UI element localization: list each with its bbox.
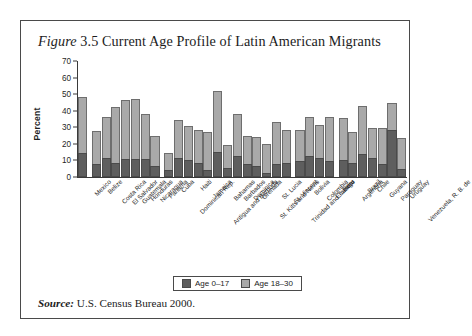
bar-segment-age-18-30[interactable] xyxy=(368,128,377,158)
bar-segment-age-18-30[interactable] xyxy=(243,136,252,164)
bar-segment-age-18-30[interactable] xyxy=(92,131,101,164)
bar-segment-age-0-17[interactable] xyxy=(194,163,203,177)
bar-segment-age-18-30[interactable] xyxy=(325,117,334,161)
bar-segment-age-0-17[interactable] xyxy=(262,173,271,177)
bar-segment-age-18-30[interactable] xyxy=(348,132,357,163)
bar-segment-age-0-17[interactable] xyxy=(131,159,140,177)
bar-segment-age-18-30[interactable] xyxy=(78,97,87,154)
bar-segment-age-18-30[interactable] xyxy=(194,130,203,163)
bar-segment-age-0-17[interactable] xyxy=(368,158,377,177)
bar-segment-age-18-30[interactable] xyxy=(131,99,140,159)
bar-segment-age-18-30[interactable] xyxy=(164,153,173,170)
bar-stack[interactable] xyxy=(233,114,242,177)
bar-segment-age-0-17[interactable] xyxy=(223,168,232,177)
bar-segment-age-0-17[interactable] xyxy=(184,160,193,177)
bar-stack[interactable] xyxy=(223,145,232,177)
bar-segment-age-18-30[interactable] xyxy=(174,120,183,158)
bar-segment-age-0-17[interactable] xyxy=(305,156,314,177)
bar-stack[interactable] xyxy=(325,117,334,177)
bar-stack[interactable] xyxy=(141,114,150,177)
bar-stack[interactable] xyxy=(131,99,140,177)
bar-segment-age-18-30[interactable] xyxy=(339,118,348,160)
bar-stack[interactable] xyxy=(397,138,406,177)
bar-segment-age-18-30[interactable] xyxy=(378,128,387,164)
bar-segment-age-18-30[interactable] xyxy=(397,138,406,168)
legend-item[interactable]: Age 18–30 xyxy=(241,279,293,288)
bar-segment-age-0-17[interactable] xyxy=(348,163,357,177)
bar-segment-age-18-30[interactable] xyxy=(315,125,324,158)
bar-stack[interactable] xyxy=(262,144,271,177)
bar-stack[interactable] xyxy=(102,117,111,177)
bar-segment-age-0-17[interactable] xyxy=(213,152,222,177)
bar-stack[interactable] xyxy=(194,130,203,177)
bar-segment-age-0-17[interactable] xyxy=(325,161,334,177)
bar-stack[interactable] xyxy=(174,120,183,177)
bar-segment-age-0-17[interactable] xyxy=(397,169,406,177)
bar-segment-age-0-17[interactable] xyxy=(295,161,304,177)
bar-stack[interactable] xyxy=(164,153,173,177)
bar-segment-age-18-30[interactable] xyxy=(223,145,232,168)
bar-stack[interactable] xyxy=(121,100,130,177)
bar-stack[interactable] xyxy=(358,106,367,177)
bar-segment-age-0-17[interactable] xyxy=(78,153,87,177)
bar-segment-age-0-17[interactable] xyxy=(102,158,111,177)
bar-segment-age-0-17[interactable] xyxy=(272,164,281,177)
bar-stack[interactable] xyxy=(78,97,87,177)
bar-stack[interactable] xyxy=(150,136,159,177)
bar-stack[interactable] xyxy=(368,128,377,177)
bar-stack[interactable] xyxy=(282,130,291,177)
bar-stack[interactable] xyxy=(305,117,314,177)
bar-stack[interactable] xyxy=(387,103,396,177)
bar-stack[interactable] xyxy=(295,130,304,177)
bar-segment-age-18-30[interactable] xyxy=(282,130,291,162)
bar-segment-age-18-30[interactable] xyxy=(262,144,271,174)
bar-segment-age-18-30[interactable] xyxy=(203,132,212,169)
bar-segment-age-0-17[interactable] xyxy=(339,160,348,177)
bar-segment-age-0-17[interactable] xyxy=(203,170,212,177)
y-axis: 010203040506070 xyxy=(49,61,77,177)
bar-stack[interactable] xyxy=(203,132,212,177)
bar-segment-age-18-30[interactable] xyxy=(150,136,159,166)
bar-segment-age-18-30[interactable] xyxy=(141,114,150,159)
bar-segment-age-0-17[interactable] xyxy=(233,156,242,177)
bar-segment-age-0-17[interactable] xyxy=(378,164,387,177)
bar-stack[interactable] xyxy=(243,136,252,177)
bar-segment-age-0-17[interactable] xyxy=(387,130,396,177)
bar-segment-age-18-30[interactable] xyxy=(387,103,396,130)
bar-stack[interactable] xyxy=(184,126,193,177)
bar-segment-age-0-17[interactable] xyxy=(243,164,252,177)
bar-stack[interactable] xyxy=(272,122,281,177)
bar-stack[interactable] xyxy=(348,132,357,177)
bar-segment-age-18-30[interactable] xyxy=(111,107,120,164)
bar-segment-age-0-17[interactable] xyxy=(252,166,261,177)
bar-segment-age-0-17[interactable] xyxy=(141,159,150,177)
bar-segment-age-0-17[interactable] xyxy=(174,158,183,177)
bar-stack[interactable] xyxy=(92,131,101,177)
bar-segment-age-18-30[interactable] xyxy=(213,91,222,153)
y-tick-label: 20 xyxy=(49,139,71,148)
bar-stack[interactable] xyxy=(252,137,261,177)
bar-segment-age-0-17[interactable] xyxy=(111,163,120,177)
bar-segment-age-0-17[interactable] xyxy=(315,158,324,177)
bar-segment-age-18-30[interactable] xyxy=(295,130,304,161)
bar-segment-age-18-30[interactable] xyxy=(358,106,367,154)
bar-segment-age-0-17[interactable] xyxy=(150,166,159,177)
bar-segment-age-18-30[interactable] xyxy=(121,100,130,159)
bar-segment-age-18-30[interactable] xyxy=(184,126,193,160)
bar-segment-age-0-17[interactable] xyxy=(121,159,130,177)
bar-stack[interactable] xyxy=(315,125,324,177)
bar-segment-age-18-30[interactable] xyxy=(252,137,261,167)
bar-stack[interactable] xyxy=(339,118,348,177)
bar-segment-age-0-17[interactable] xyxy=(282,163,291,177)
bar-segment-age-18-30[interactable] xyxy=(102,117,111,159)
bar-segment-age-0-17[interactable] xyxy=(92,164,101,177)
bar-stack[interactable] xyxy=(378,128,387,177)
bar-segment-age-18-30[interactable] xyxy=(233,114,242,156)
bar-segment-age-0-17[interactable] xyxy=(358,154,367,177)
bar-stack[interactable] xyxy=(213,91,222,177)
legend-item[interactable]: Age 0–17 xyxy=(182,279,229,288)
bar-stack[interactable] xyxy=(111,107,120,177)
bar-segment-age-0-17[interactable] xyxy=(164,170,173,177)
bar-segment-age-18-30[interactable] xyxy=(305,117,314,156)
bar-segment-age-18-30[interactable] xyxy=(272,122,281,164)
